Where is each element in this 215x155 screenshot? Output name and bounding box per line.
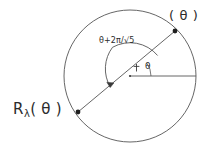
diagram-svg — [0, 0, 215, 155]
opposite-point-dot — [76, 110, 81, 115]
figure-canvas: Rλ( θ ) ( θ ) θ+2π/√5 θ — [0, 0, 215, 155]
operator-argument: ( θ ) — [30, 100, 61, 118]
arc-radical: √5 — [124, 36, 134, 45]
operator-prefix: R — [13, 100, 24, 118]
arc-two-pi: 2π — [111, 36, 121, 45]
arc-plus: + — [104, 36, 111, 45]
boundary-point-label: ( θ ) — [169, 9, 198, 22]
angle-theta-label: θ — [145, 62, 151, 71]
circle-center-dot — [129, 75, 131, 77]
operator-label: Rλ( θ ) — [13, 102, 62, 119]
boundary-point-dot — [173, 29, 178, 34]
rotation-arc-label: θ+2π/√5 — [99, 37, 134, 45]
